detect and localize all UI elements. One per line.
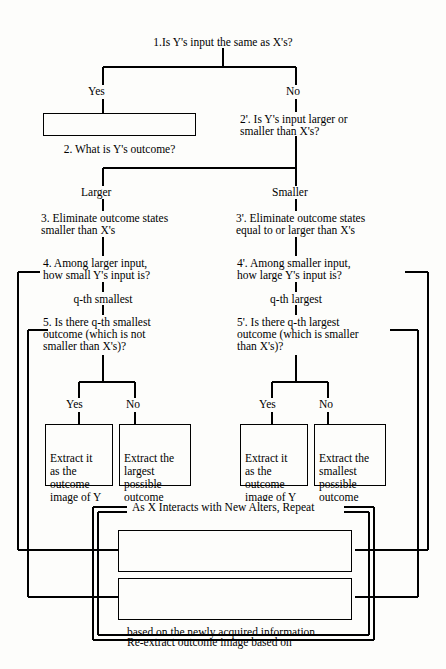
- root-question: 1.Is Y's input the same as X's?: [0, 36, 446, 49]
- node-step5prime-line1: 5'. Is there q-th largest: [237, 316, 339, 329]
- branch-label-qth-smallest: q-th smallest: [43, 293, 163, 306]
- loop-title: As X Interacts with New Alters, Repeat: [128, 501, 318, 513]
- node-step2prime-line1: 2'. Is Y's input larger or: [240, 113, 348, 126]
- branch-label-yes-left: Yes: [66, 398, 83, 410]
- node-step4-line1: 4. Among larger input,: [43, 257, 147, 270]
- node-step2-box: 2. What is Y's outcome?: [43, 113, 196, 136]
- node-step3prime-line1: 3'. Eliminate outcome states: [236, 212, 365, 225]
- outcome-box-right-yes-label: Extract it as the outcome image of Y: [241, 450, 307, 505]
- node-step5prime-line3: than X's)?: [237, 340, 283, 353]
- node-step4prime-line2: how large Y's input is?: [237, 269, 342, 282]
- outcome-box-left-yes-label: Extract it as the outcome image of Y: [46, 450, 112, 505]
- outcome-box-left-no-label: Extract the largest possible outcome: [120, 450, 190, 505]
- branch-label-qth-largest: q-th largest: [240, 293, 352, 306]
- loop-box-reextract: Re-extract outcome image based on the re…: [118, 578, 352, 620]
- branch-label-yes-top: Yes: [88, 85, 105, 97]
- branch-label-no-top: No: [286, 85, 300, 97]
- node-step3prime-line2: equal to or larger than X's: [236, 224, 355, 237]
- node-step5-line1: 5. Is there q-th smallest: [43, 316, 151, 329]
- node-step5-line3: smaller than X's)?: [43, 340, 126, 353]
- outcome-box-left-no: Extract the largest possible outcome: [119, 424, 191, 486]
- node-step2prime-line2: smaller than X's?: [240, 125, 319, 138]
- node-step4prime-line1: 4'. Among smaller input,: [237, 257, 351, 270]
- node-step5prime-line2: outcome (which is smaller: [237, 328, 359, 341]
- flowchart-page: 1.Is Y's input the same as X's? Yes No 2…: [0, 0, 446, 669]
- outcome-box-left-yes: Extract it as the outcome image of Y: [45, 424, 113, 486]
- node-step3-line1: 3. Eliminate outcome states: [41, 212, 168, 225]
- loop-box-correct-rank: Correct the estimated rank of Y's input …: [118, 530, 352, 572]
- outcome-box-right-no: Extract the smallest possible outcome: [314, 424, 386, 486]
- loop-box-reextract-line1: Re-extract outcome image based on: [127, 636, 347, 649]
- branch-label-no-left: No: [126, 398, 140, 410]
- branch-label-yes-right: Yes: [259, 398, 276, 410]
- branch-label-larger: Larger: [81, 186, 111, 198]
- node-step3-line2: smaller than X's: [41, 224, 115, 237]
- outcome-box-right-yes: Extract it as the outcome image of Y: [240, 424, 308, 486]
- outcome-box-right-no-label: Extract the smallest possible outcome: [315, 450, 385, 505]
- node-step4-line2: how small Y's input is?: [43, 269, 150, 282]
- node-step2-label: 2. What is Y's outcome?: [44, 139, 195, 158]
- branch-label-smaller: Smaller: [272, 186, 308, 198]
- node-step5-line2: outcome (which is not: [43, 328, 146, 341]
- branch-label-no-right: No: [319, 398, 333, 410]
